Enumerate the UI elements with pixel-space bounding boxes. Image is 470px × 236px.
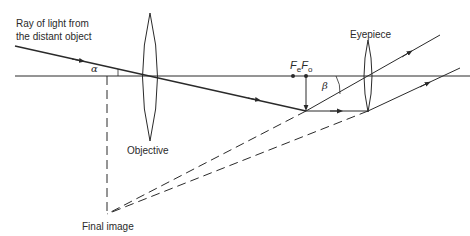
focal-point-fe bbox=[291, 74, 295, 78]
emergent-ray-lower bbox=[368, 68, 460, 111]
ray-label-line2: the distant object bbox=[16, 31, 92, 43]
ray-arrow-icon bbox=[402, 52, 410, 57]
final-image-label: Final image bbox=[82, 221, 134, 233]
ray-label-line1: Ray of light from bbox=[16, 18, 89, 30]
focal-label: FeFo bbox=[290, 59, 312, 74]
eyepiece-label: Eyepiece bbox=[350, 29, 391, 41]
incoming-ray bbox=[15, 46, 306, 111]
beta-angle-arc bbox=[336, 76, 340, 94]
virtual-ray-upper bbox=[107, 111, 306, 214]
alpha-label: α bbox=[91, 63, 98, 74]
fo-subscript: o bbox=[308, 65, 312, 74]
focal-point-fo bbox=[304, 74, 308, 78]
virtual-ray-lower bbox=[107, 111, 368, 214]
emergent-ray-upper bbox=[306, 35, 440, 111]
fo-label: F bbox=[301, 59, 308, 71]
objective-label: Objective bbox=[127, 145, 169, 157]
fe-label: F bbox=[290, 59, 297, 71]
beta-label: β bbox=[322, 80, 328, 91]
ray-arrow-icon bbox=[420, 83, 428, 87]
